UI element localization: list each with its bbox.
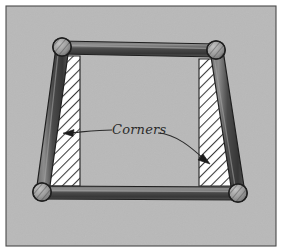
annotation-label: Corners bbox=[112, 122, 166, 137]
rail-top bbox=[60, 41, 218, 57]
corner-top-right bbox=[207, 41, 225, 59]
figure-root: Corners bbox=[0, 0, 282, 252]
corner-top-left bbox=[53, 38, 71, 56]
rail-bottom bbox=[40, 186, 240, 200]
corners-diagram: Corners bbox=[0, 0, 282, 252]
corner-bottom-right bbox=[229, 184, 247, 202]
corner-bottom-left bbox=[33, 183, 51, 201]
